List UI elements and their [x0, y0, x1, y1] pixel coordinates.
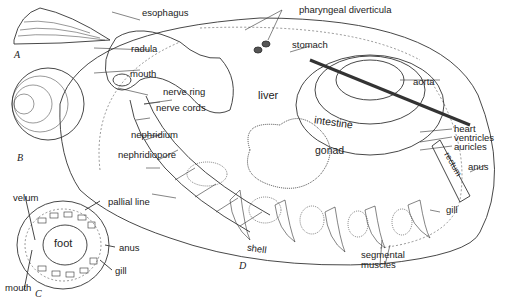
label-mouth: mouth — [130, 69, 156, 79]
figure-label-b: B — [17, 152, 23, 163]
label-nerve-cords: nerve cords — [156, 103, 206, 113]
label-aorta: aorta — [413, 77, 435, 87]
label-c-gill: gill — [115, 266, 127, 276]
figure-label-c: C — [35, 288, 42, 299]
label-stomach: stomach — [292, 40, 328, 50]
label-muscles: muscles — [361, 260, 396, 270]
label-c-foot: foot — [54, 238, 72, 249]
label-nephridiopore: nephridiopore — [118, 150, 176, 160]
label-esophagus: esophagus — [142, 8, 188, 18]
shell-side-view — [14, 8, 110, 44]
label-shell: shell — [246, 243, 267, 255]
label-auricles: auricles — [454, 142, 487, 152]
label-radula: radula — [131, 44, 157, 54]
figure-label-a: A — [14, 49, 20, 60]
internal-anatomy — [60, 10, 495, 265]
label-c-velum: velum — [13, 193, 38, 203]
label-c-anus: anus — [119, 243, 140, 253]
label-c-pallial-line: pallial line — [108, 197, 150, 207]
label-gonad: gonad — [315, 145, 344, 156]
label-nephridium: nephridium — [131, 130, 178, 140]
label-anus: anus — [468, 162, 489, 172]
label-c-mouth: mouth — [5, 283, 31, 293]
label-nerve-ring: nerve ring — [163, 87, 205, 97]
figure-label-d: D — [239, 260, 246, 271]
label-liver: liver — [258, 90, 278, 101]
label-gill: gill — [446, 205, 458, 215]
label-pharyngeal-diverticula: pharyngeal diverticula — [299, 5, 391, 15]
